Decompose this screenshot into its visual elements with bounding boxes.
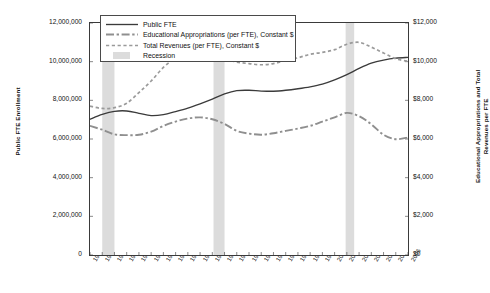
series-line-2 — [90, 113, 408, 139]
y-tick-left-5: 10,000,000 — [30, 57, 82, 64]
y-tick-right-4: $8,000 — [413, 95, 455, 102]
legend-item-0: Public FTE — [105, 19, 291, 30]
y-tick-right-3: $6,000 — [413, 134, 455, 141]
y-tick-left-2: 4,000,000 — [30, 173, 82, 180]
legend-key-0 — [105, 20, 139, 29]
legend-item-1: Educational Appropriations (per FTE), Co… — [105, 30, 291, 41]
chart-legend: Public FTEEducational Appropriations (pe… — [100, 15, 296, 62]
y-axis-right-title: Educational Appropriations and Total Rev… — [474, 61, 490, 191]
y-tick-right-5: $10,000 — [413, 57, 455, 64]
legend-key-3 — [105, 51, 139, 60]
series-line-0 — [90, 57, 408, 119]
recession-band-2 — [346, 23, 355, 255]
legend-key-2 — [105, 41, 139, 50]
legend-item-3: Recession — [105, 51, 291, 62]
legend-label-0: Public FTE — [143, 20, 177, 29]
legend-label-3: Recession — [143, 51, 175, 60]
y-tick-left-0: 0 — [30, 250, 82, 257]
y-tick-right-1: $2,000 — [413, 211, 455, 218]
y-tick-left-3: 6,000,000 — [30, 134, 82, 141]
y-tick-left-1: 2,000,000 — [30, 211, 82, 218]
legend-label-2: Total Revenues (per FTE), Constant $ — [143, 41, 259, 50]
y-axis-left-title: Public FTE Enrollment — [14, 67, 21, 177]
legend-item-2: Total Revenues (per FTE), Constant $ — [105, 40, 291, 51]
y-tick-left-6: 12,000,000 — [30, 18, 82, 25]
x-tick-26: 2006 — [409, 247, 422, 262]
legend-recession-swatch — [113, 52, 130, 59]
y-tick-left-4: 8,000,000 — [30, 95, 82, 102]
legend-label-1: Educational Appropriations (per FTE), Co… — [143, 30, 294, 39]
y-tick-right-6: $12,000 — [413, 18, 455, 25]
legend-key-1 — [105, 30, 139, 39]
y-tick-right-2: $4,000 — [413, 173, 455, 180]
